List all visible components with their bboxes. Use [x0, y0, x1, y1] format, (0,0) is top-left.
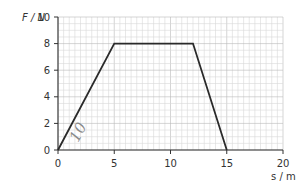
- y-tick-label: 8: [44, 38, 50, 49]
- x-axis-label: s / m: [271, 171, 296, 182]
- y-tick-label: 6: [44, 65, 50, 76]
- x-tick-label: 5: [111, 158, 117, 169]
- y-tick-label: 2: [44, 118, 50, 129]
- x-tick-label: 15: [220, 158, 233, 169]
- x-tick-label: 20: [277, 158, 290, 169]
- x-tick-label: 0: [55, 158, 61, 169]
- y-tick-label: 0: [44, 145, 50, 156]
- y-axis-label: F / N: [22, 12, 45, 23]
- y-tick-label: 4: [44, 91, 50, 102]
- axes: [54, 17, 283, 154]
- x-tick-label: 10: [164, 158, 177, 169]
- force-displacement-chart: 051015200246810 F / N s / m 10: [0, 0, 298, 188]
- grid: [58, 17, 283, 150]
